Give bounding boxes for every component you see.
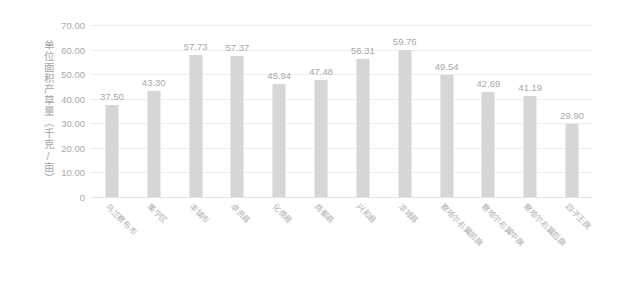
bar[interactable]	[524, 96, 537, 197]
x-axis-tick-label: 集宁区	[145, 202, 168, 225]
bar-chart-figure: 单位面积产草量（千克/亩） 70.0060.0050.0040.0030.002…	[0, 0, 633, 282]
bar-group[interactable]: 37.50	[91, 25, 133, 197]
x-axis-tick: 四子王旗	[551, 200, 593, 280]
x-axis-tick-label: 兴和县	[355, 202, 378, 225]
x-axis-tick-label: 凉城县	[396, 202, 419, 225]
x-axis-tick: 察哈尔右翼后旗	[509, 200, 551, 280]
bar-value-label: 59.76	[393, 36, 417, 47]
bar[interactable]	[105, 105, 118, 197]
x-axis-tick: 化德县	[258, 200, 300, 280]
y-axis-tick-label: 40.00	[39, 93, 85, 104]
bar-value-label: 29.90	[560, 110, 584, 121]
bar[interactable]	[147, 91, 160, 197]
bar[interactable]	[189, 55, 202, 197]
bar-value-label: 47.48	[309, 66, 333, 77]
x-axis-tick-label: 商都县	[313, 202, 336, 225]
bar-value-label: 45.94	[267, 70, 291, 81]
x-axis-tick-label: 卓资县	[229, 202, 252, 225]
bar-group[interactable]: 57.37	[217, 25, 259, 197]
bar-group[interactable]: 49.54	[426, 25, 468, 197]
bar[interactable]	[315, 80, 328, 197]
bar[interactable]	[356, 59, 369, 197]
bar-group[interactable]: 41.19	[509, 25, 551, 197]
x-axis-tick: 丰镇市	[175, 200, 217, 280]
bar[interactable]	[482, 92, 495, 197]
bars-layer: 37.5043.3057.7357.3745.9447.4856.3159.76…	[91, 25, 593, 197]
y-axis-tick-label: 70.00	[39, 20, 85, 31]
bar-value-label: 43.30	[142, 77, 166, 88]
x-axis-tick: 察哈尔右翼中旗	[468, 200, 510, 280]
bar-value-label: 42.69	[477, 78, 501, 89]
bar-group[interactable]: 59.76	[384, 25, 426, 197]
x-axis-category-labels: 乌兰察布市集宁区丰镇市卓资县化德县商都县兴和县凉城县察哈尔右翼前旗察哈尔右翼中旗…	[91, 200, 593, 280]
bar-group[interactable]: 45.94	[258, 25, 300, 197]
bar-value-label: 57.73	[184, 41, 208, 52]
x-axis-tick: 察哈尔右翼前旗	[426, 200, 468, 280]
x-axis-tick: 兴和县	[342, 200, 384, 280]
bar[interactable]	[398, 50, 411, 197]
x-axis-tick-label: 四子王旗	[564, 202, 593, 231]
x-axis-tick: 集宁区	[133, 200, 175, 280]
bar[interactable]	[231, 56, 244, 197]
bar-group[interactable]: 57.73	[175, 25, 217, 197]
gridline	[91, 197, 593, 198]
x-axis-tick: 凉城县	[384, 200, 426, 280]
bar-group[interactable]: 29.90	[551, 25, 593, 197]
y-axis-tick-label: 10.00	[39, 167, 85, 178]
bar-group[interactable]: 47.48	[300, 25, 342, 197]
y-axis-tick-label: 20.00	[39, 142, 85, 153]
bar-value-label: 56.31	[351, 45, 375, 56]
y-axis-tick-label: 30.00	[39, 118, 85, 129]
x-axis-tick: 商都县	[300, 200, 342, 280]
x-axis-tick: 乌兰察布市	[91, 200, 133, 280]
bar-value-label: 41.19	[518, 82, 542, 93]
y-axis-tick-labels: 70.0060.0050.0040.0030.0020.0010.000	[39, 25, 85, 197]
bar[interactable]	[440, 75, 453, 197]
bar-value-label: 49.54	[435, 61, 459, 72]
bar-group[interactable]: 42.69	[468, 25, 510, 197]
bar-value-label: 57.37	[226, 42, 250, 53]
bar-group[interactable]: 56.31	[342, 25, 384, 197]
y-axis-tick-label: 60.00	[39, 44, 85, 55]
y-axis-tick-label: 50.00	[39, 69, 85, 80]
bar-value-label: 37.50	[100, 91, 124, 102]
y-axis-tick-label: 0	[39, 192, 85, 203]
bar[interactable]	[273, 84, 286, 197]
bar-group[interactable]: 43.30	[133, 25, 175, 197]
bar[interactable]	[566, 124, 579, 197]
x-axis-tick-label: 化德县	[271, 202, 294, 225]
x-axis-tick-label: 丰镇市	[187, 202, 210, 225]
x-axis-tick: 卓资县	[217, 200, 259, 280]
